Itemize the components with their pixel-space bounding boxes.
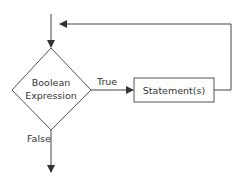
statement-label: Statement(s) — [143, 85, 205, 96]
true-label: True — [96, 76, 117, 87]
decision-label-line1: Boolean — [32, 77, 70, 88]
while-loop-flowchart: Boolean Expression True Statement(s) Fal… — [0, 0, 242, 177]
decision-diamond — [12, 48, 91, 130]
false-label: False — [27, 133, 51, 144]
decision-label-line2: Expression — [25, 90, 77, 101]
